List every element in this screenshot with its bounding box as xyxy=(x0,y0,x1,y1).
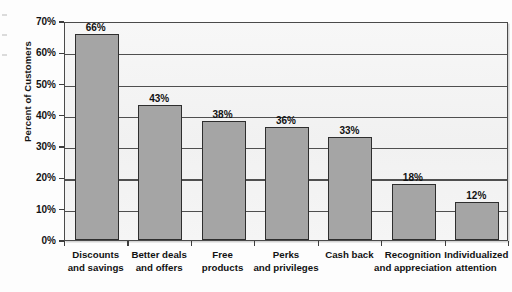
category-label-line1: Cash back xyxy=(325,249,373,260)
x-axis-tick-mark xyxy=(318,241,319,246)
bar[interactable] xyxy=(392,184,436,240)
y-axis-tick-label: 20% xyxy=(36,173,59,183)
bar[interactable] xyxy=(75,34,119,240)
x-axis-tick-mark xyxy=(127,241,128,246)
category-label-line2: and appreciation xyxy=(374,262,452,275)
bar[interactable] xyxy=(265,127,309,240)
y-axis-tick-label: 60% xyxy=(36,48,59,58)
x-axis-category-label: Perksand privileges xyxy=(253,249,318,274)
bar-value-label: 18% xyxy=(403,172,423,183)
bar-value-label: 36% xyxy=(276,115,296,126)
y-axis-tick-label: 70% xyxy=(36,17,59,27)
plot-area xyxy=(64,22,508,241)
category-label-line2: attention xyxy=(444,262,508,275)
x-axis-category-label: Freeproducts xyxy=(202,249,243,274)
y-axis-tick-label: 0% xyxy=(42,236,59,246)
y-axis-tick: 70% xyxy=(0,17,64,27)
gridline xyxy=(65,54,507,55)
x-axis-tick-mark xyxy=(508,241,509,246)
x-axis-category-label: Cash back xyxy=(325,249,373,262)
bar[interactable] xyxy=(138,105,182,240)
x-axis-category-label: Discountsand savings xyxy=(68,249,124,274)
x-axis-tick-mark xyxy=(64,241,65,246)
bar[interactable] xyxy=(202,121,246,240)
y-axis-tick: 30% xyxy=(0,142,64,152)
category-label-line2: products xyxy=(202,262,243,275)
y-axis-tick: 50% xyxy=(0,80,64,90)
bar[interactable] xyxy=(455,202,499,240)
category-label-line2: and offers xyxy=(131,262,186,275)
category-label-line1: Better deals xyxy=(131,249,186,260)
bar-value-label: 38% xyxy=(213,109,233,120)
category-label-line1: Individualized xyxy=(444,249,508,260)
y-axis-tick-label: 30% xyxy=(36,142,59,152)
x-axis-tick-mark xyxy=(191,241,192,246)
x-axis-category-label: Recognitionand appreciation xyxy=(374,249,452,274)
y-axis-tick: 0% xyxy=(0,236,64,246)
y-axis-tick-label: 50% xyxy=(36,80,59,90)
y-axis-tick: 10% xyxy=(0,205,64,215)
category-label-line1: Discounts xyxy=(72,249,119,260)
bar[interactable] xyxy=(328,137,372,240)
scan-artifact xyxy=(2,34,7,36)
category-label-line1: Recognition xyxy=(385,249,441,260)
x-axis-category-label: Individualizedattention xyxy=(444,249,508,274)
scan-artifact xyxy=(2,14,7,16)
x-axis-tick-mark xyxy=(254,241,255,246)
bar-value-label: 66% xyxy=(86,22,106,33)
bar-value-label: 43% xyxy=(149,93,169,104)
x-axis-tick-mark xyxy=(445,241,446,246)
y-axis-tick-label: 40% xyxy=(36,111,59,121)
gridline xyxy=(65,86,507,87)
y-axis-tick-label: 10% xyxy=(36,205,59,215)
y-axis-tick: 20% xyxy=(0,173,64,183)
x-axis-tick-mark xyxy=(381,241,382,246)
category-label-line2: and savings xyxy=(68,262,124,275)
bar-value-label: 33% xyxy=(339,125,359,136)
category-label-line1: Free xyxy=(212,249,232,260)
y-axis-tick: 60% xyxy=(0,48,64,58)
bar-value-label: 12% xyxy=(466,190,486,201)
bar-chart-figure: Percent of Customers 0%10%20%30%40%50%60… xyxy=(0,0,512,292)
category-label-line1: Perks xyxy=(273,249,299,260)
category-label-line2: and privileges xyxy=(253,262,318,275)
x-axis-category-label: Better dealsand offers xyxy=(131,249,186,274)
y-axis-tick: 40% xyxy=(0,111,64,121)
y-axis-title: Percent of Customers xyxy=(22,27,33,157)
